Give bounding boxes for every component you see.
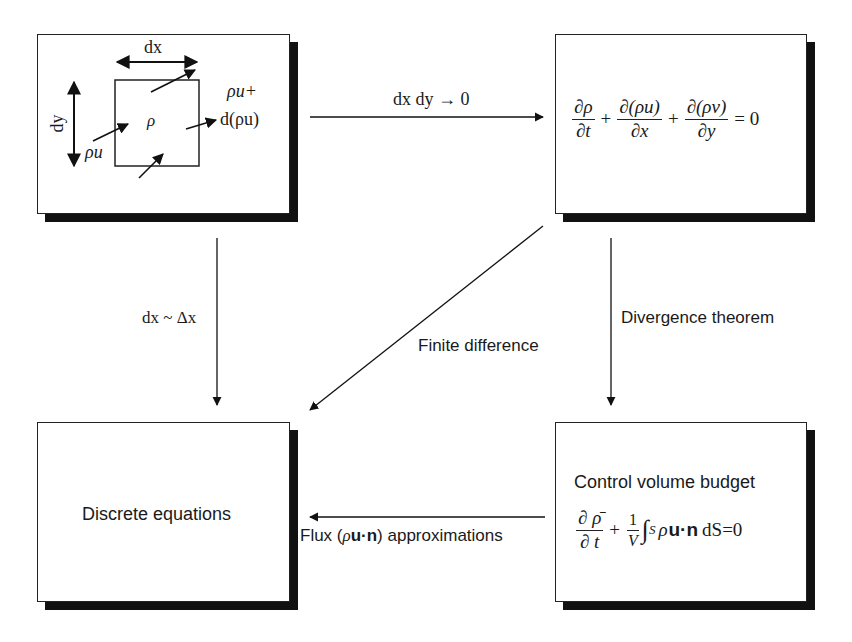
finite-difference-label: Finite difference	[418, 336, 539, 356]
outflow-arrow	[186, 120, 216, 129]
rho-label: ρ	[147, 111, 155, 131]
outflow-label-line1: ρu+	[227, 81, 257, 102]
discrete-equations-title: Discrete equations	[82, 504, 231, 525]
y-flux-term: ∂(ρv) ∂y	[685, 97, 729, 142]
continuity-equation: ∂ρ ∂t + ∂(ρu) ∂x + ∂(ρv) ∂y = 0	[570, 97, 763, 142]
discretize-label: dx ~ Δx	[142, 308, 196, 328]
dy-label: dy	[47, 115, 68, 133]
x-flux-term: ∂(ρu) ∂x	[617, 97, 662, 142]
outflow-label-line2: d(ρu)	[220, 109, 259, 130]
flux-label: Flux (ρu·n) approximations	[300, 526, 503, 546]
divergence-label: Divergence theorem	[621, 308, 774, 328]
limit-label: dx dy → 0	[393, 89, 470, 110]
integral-sign: ∫	[642, 515, 649, 545]
inflow-label: ρu	[85, 142, 103, 163]
finite-difference-arrow	[310, 226, 543, 410]
control-cell-square	[115, 80, 199, 166]
control-volume-equation: ∂ ρ̄ ∂ t + 1 V ∫ S ρ u·n dS =0	[574, 508, 742, 553]
top-flux-arrow	[151, 70, 195, 92]
dx-label: dx	[144, 37, 162, 58]
inflow-arrow	[93, 124, 128, 141]
control-volume-budget-title: Control volume budget	[574, 472, 755, 493]
time-derivative-term: ∂ρ ∂t	[572, 97, 595, 142]
